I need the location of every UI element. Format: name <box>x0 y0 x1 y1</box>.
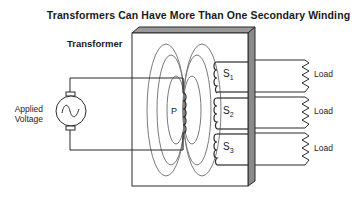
secondary-3-label: S3 <box>223 141 234 154</box>
load-1-label: Load <box>314 69 333 79</box>
resistor-icon <box>302 60 309 92</box>
primary-label: P <box>171 106 177 116</box>
resistor-icon <box>302 97 309 128</box>
load-2-label: Load <box>314 106 333 116</box>
secondary-1-label: S1 <box>223 68 234 81</box>
secondary-2-label: S2 <box>223 105 234 118</box>
transformer-diagram <box>0 0 359 201</box>
resistor-icon <box>302 133 309 165</box>
loads <box>255 60 309 165</box>
load-3-label: Load <box>314 143 333 153</box>
